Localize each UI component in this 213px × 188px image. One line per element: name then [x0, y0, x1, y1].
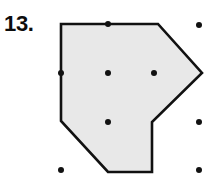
geoboard-dot	[196, 167, 202, 173]
geoboard-dot	[58, 70, 64, 76]
geoboard-dot	[105, 70, 111, 76]
geoboard-canvas	[0, 0, 213, 188]
geoboard-dot	[105, 119, 111, 125]
shaded-polygon	[61, 24, 202, 172]
geoboard-dot	[196, 119, 202, 125]
geoboard-dot	[151, 70, 157, 76]
geoboard-dot	[58, 167, 64, 173]
geoboard-dot	[105, 21, 111, 27]
geometry-figure: 13.	[0, 0, 213, 188]
geoboard-dot	[196, 22, 202, 28]
